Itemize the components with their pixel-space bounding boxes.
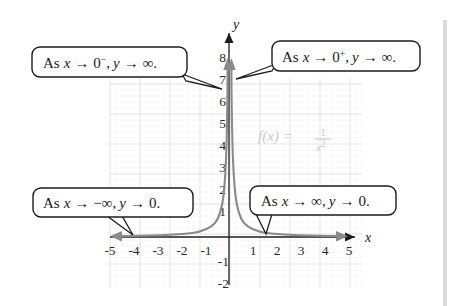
x-tick--4: -4 — [128, 243, 139, 258]
x-tick--1: -1 — [200, 243, 211, 258]
function-label-numerator: 1 — [320, 126, 326, 138]
callout-text-bottom-right: Asx→∞,y→0. — [261, 193, 370, 209]
y-tick-5: 5 — [219, 116, 226, 131]
y-tick-7: 7 — [219, 72, 226, 87]
x-tick-4: 4 — [322, 243, 329, 258]
scan-edge-artifact — [443, 20, 447, 306]
y-tick--1: -1 — [218, 254, 229, 269]
function-label-arg: (x) — [262, 128, 279, 145]
x-tick--3: -3 — [152, 243, 163, 258]
y-tick-8: 8 — [219, 50, 226, 65]
x-axis-label: x — [364, 230, 372, 245]
x-tick-2: 2 — [274, 243, 281, 258]
y-tick-4: 4 — [219, 138, 226, 153]
x-tick-3: 3 — [298, 243, 305, 258]
svg-text:f(x)=: f(x)= — [258, 128, 292, 145]
y-axis-label: y — [231, 17, 240, 32]
figure-container: x y -5 -4 -3 -2 -1 1 2 3 4 5 8 7 6 5 4 3… — [0, 0, 460, 306]
x-tick--2: -2 — [176, 243, 187, 258]
x-tick-5: 5 — [346, 243, 353, 258]
y-tick-6: 6 — [219, 94, 226, 109]
x-tick-1: 1 — [250, 243, 257, 258]
x-tick--5: -5 — [104, 243, 115, 258]
graph-svg: x y -5 -4 -3 -2 -1 1 2 3 4 5 8 7 6 5 4 3… — [0, 0, 460, 306]
y-tick--2: -2 — [218, 276, 229, 291]
function-label-equals: = — [284, 128, 292, 144]
